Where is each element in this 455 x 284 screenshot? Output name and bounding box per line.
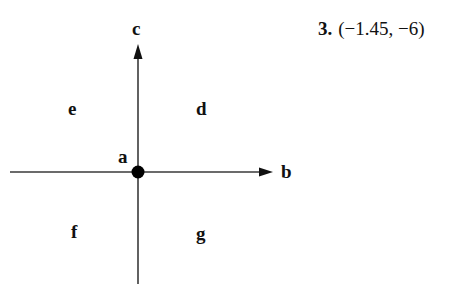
problem-point: (−1.45, −6): [338, 18, 424, 39]
problem-number: 3.: [318, 18, 332, 39]
axes-diagram: [0, 0, 455, 284]
label-c: c: [132, 19, 140, 38]
vertical-axis: [134, 44, 143, 284]
label-d: d: [196, 99, 207, 118]
label-a: a: [118, 147, 128, 166]
problem-statement: 3.(−1.45, −6): [318, 19, 425, 38]
up-arrow-icon: [134, 44, 143, 59]
label-f: f: [71, 222, 77, 241]
label-g: g: [196, 224, 206, 243]
origin-point: [132, 166, 145, 179]
label-b: b: [281, 162, 292, 181]
right-arrow-icon: [259, 168, 273, 177]
label-e: e: [68, 99, 76, 118]
